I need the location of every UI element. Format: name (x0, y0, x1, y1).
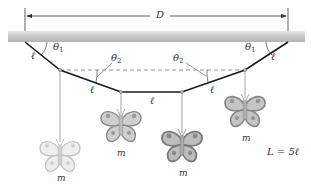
mass-3-label: m (179, 169, 188, 178)
butterfly-3 (162, 129, 202, 161)
segment-5-label: ℓ (271, 52, 275, 62)
segment-4-label: ℓ (210, 85, 214, 95)
distance-label: D (156, 10, 164, 20)
butterfly-1 (40, 139, 80, 171)
mass-2-label: m (117, 149, 126, 158)
segment-3-label: ℓ (150, 96, 154, 106)
diagram-canvas (0, 0, 311, 186)
theta2-left-arc (96, 70, 97, 82)
mass-4-label: m (242, 134, 251, 143)
theta1-right-label: θ1 (245, 42, 256, 54)
theta1-left-arc (41, 42, 47, 55)
total-length-equation: L = 5ℓ (267, 147, 299, 157)
segment-2-label: ℓ (90, 85, 94, 95)
theta2-right-label: θ2 (173, 53, 184, 65)
segment-1-label: ℓ (31, 51, 35, 61)
mass-1-label: m (57, 174, 66, 183)
butterfly-4 (225, 94, 265, 126)
theta1-left-label: θ1 (53, 42, 64, 54)
mobile-diagram: D θ1 θ1 θ2 θ2 ℓ ℓ ℓ ℓ ℓ m m m m L = 5ℓ (0, 0, 311, 186)
theta2-left-label: θ2 (111, 53, 122, 65)
theta2-right-arc (207, 70, 208, 82)
